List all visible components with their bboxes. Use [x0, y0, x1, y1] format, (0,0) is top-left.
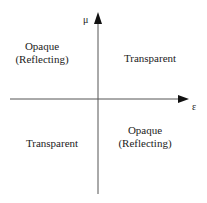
quadrant-top-left-line2: (Reflecting)	[12, 53, 72, 66]
quadrant-bottom-right: Opaque (Reflecting)	[112, 124, 178, 150]
quadrant-bottom-right-line2: (Reflecting)	[112, 137, 178, 150]
quadrant-bottom-left-line1: Transparent	[20, 137, 84, 150]
quadrant-top-right-line1: Transparent	[118, 52, 182, 65]
axes	[0, 0, 207, 203]
y-axis-arrow-icon	[94, 12, 102, 24]
x-axis-label: ε	[192, 102, 196, 112]
y-axis-label: μ	[83, 15, 88, 25]
quadrant-top-left: Opaque (Reflecting)	[12, 40, 72, 66]
quadrant-top-left-line1: Opaque	[12, 40, 72, 53]
quadrant-bottom-right-line1: Opaque	[112, 124, 178, 137]
quadrant-bottom-left: Transparent	[20, 137, 84, 150]
x-axis-arrow-icon	[178, 95, 189, 103]
quadrant-top-right: Transparent	[118, 52, 182, 65]
